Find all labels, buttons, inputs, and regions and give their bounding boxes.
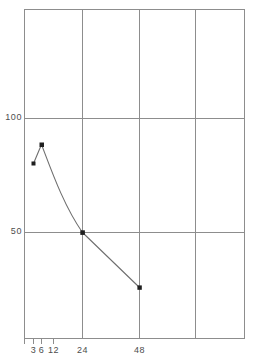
chart-canvas: [0, 0, 258, 359]
data-point-marker: [40, 143, 45, 148]
x-axis-label-24: 24: [75, 346, 90, 355]
data-point-marker: [32, 162, 36, 166]
x-axis-label-12: 12: [46, 346, 61, 355]
x-axis-label-48: 48: [132, 346, 147, 355]
data-point-marker: [137, 285, 141, 289]
y-axis-label-50: 50: [0, 227, 22, 236]
plot-frame: [25, 10, 245, 339]
data-point-marker: [80, 230, 85, 235]
x-axis-ticks: [25, 339, 54, 344]
y-axis-label-100: 100: [0, 113, 22, 122]
chart-figure: 100 50 3 6 12 24 48: [0, 0, 258, 359]
